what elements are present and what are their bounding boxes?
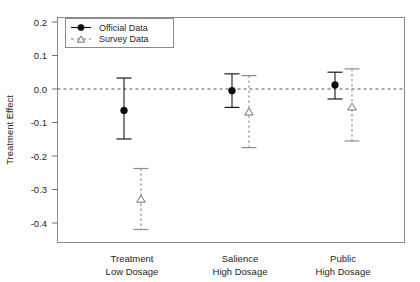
y-tick-label-6: -0.4 (31, 218, 47, 229)
y-axis-title: Treatment Effect (4, 95, 15, 165)
legend-label-survey: Survey Data (99, 34, 149, 44)
y-tick-label-0: 0.2 (34, 17, 47, 28)
group-2-survey-errorbar (242, 76, 257, 148)
x-category-label-3-line1: Public (330, 253, 356, 264)
group-2-official-point (229, 87, 236, 94)
group-2-survey-point (245, 108, 253, 115)
group-3-official-point (332, 82, 339, 89)
plot-canvas: 0.2 0.1 0.0 -0.1 -0.2 -0.3 -0.4 Treatmen… (0, 0, 420, 282)
group-3-survey-point (348, 103, 356, 110)
group-3-survey-errorbar (345, 69, 360, 141)
filled-circle-icon (78, 24, 84, 30)
group-1-official-point (121, 107, 128, 114)
x-category-label-1-line2: Low Dosage (106, 266, 159, 277)
x-category-label-1-line1: Treatment (111, 253, 154, 264)
y-axis-ticks (52, 22, 58, 223)
y-tick-label-2: 0.0 (34, 84, 47, 95)
x-category-label-2-line1: Salience (222, 253, 258, 264)
x-category-label-2-line2: High Dosage (213, 266, 268, 277)
treatment-effect-chart: 0.2 0.1 0.0 -0.1 -0.2 -0.3 -0.4 Treatmen… (0, 0, 420, 282)
y-tick-label-3: -0.1 (31, 117, 47, 128)
chart-legend: Official Data Survey Data (66, 19, 174, 48)
x-category-label-3-line2: High Dosage (316, 266, 371, 277)
y-tick-label-1: 0.1 (34, 50, 47, 61)
group-1-survey-errorbar (134, 169, 149, 230)
legend-label-official: Official Data (99, 23, 148, 33)
y-tick-label-5: -0.3 (31, 184, 47, 195)
group-3-official-errorbar (328, 72, 343, 99)
group-1-official-errorbar (117, 78, 132, 139)
group-2-official-errorbar (225, 74, 240, 108)
y-tick-label-4: -0.2 (31, 151, 47, 162)
group-1-survey-point (137, 195, 145, 202)
